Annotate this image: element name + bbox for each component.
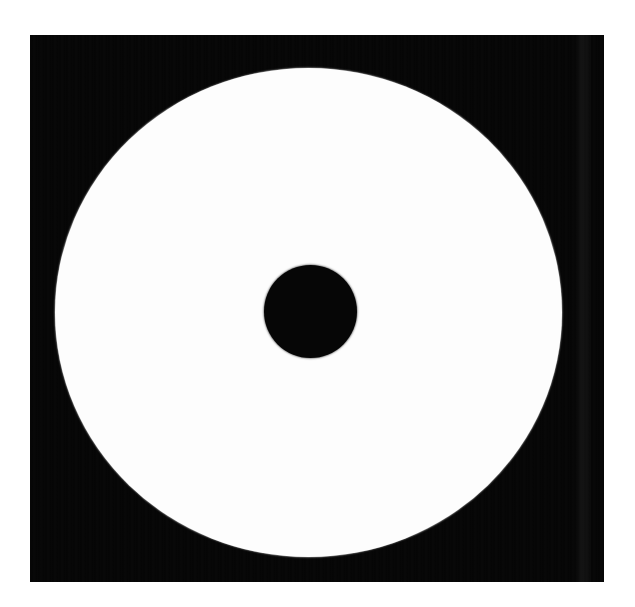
scan-light-band [575, 35, 591, 582]
center-hole: center-hole [264, 265, 357, 358]
disc-label: white-disc [55, 68, 56, 69]
image-canvas: white-disc center-hole High-contrast bla… [0, 0, 635, 607]
black-square-backdrop: white-disc center-hole [30, 35, 604, 582]
image-description: High-contrast black and white photograph… [0, 0, 1, 1]
